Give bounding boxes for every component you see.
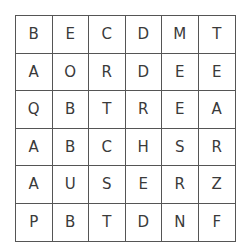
grid-cell[interactable]: M xyxy=(162,16,199,54)
grid-cell[interactable]: D xyxy=(126,54,163,92)
grid-cell[interactable]: E xyxy=(126,166,163,204)
grid-cell[interactable]: E xyxy=(162,54,199,92)
grid-cell[interactable]: R xyxy=(89,54,126,92)
grid-cell[interactable]: E xyxy=(199,54,236,92)
grid-cell[interactable]: B xyxy=(53,204,90,242)
grid-cell[interactable]: R xyxy=(162,166,199,204)
letter-grid: BECDMTAORDEEQBTREAABCHSRAUSERZPBTDNF xyxy=(15,15,236,242)
grid-cell[interactable]: C xyxy=(89,16,126,54)
grid-cell[interactable]: B xyxy=(53,129,90,167)
grid-cell[interactable]: T xyxy=(89,91,126,129)
grid-cell[interactable]: D xyxy=(126,204,163,242)
grid-cell[interactable]: F xyxy=(199,204,236,242)
grid-cell[interactable]: T xyxy=(89,204,126,242)
grid-cell[interactable]: E xyxy=(53,16,90,54)
grid-cell[interactable]: A xyxy=(16,54,53,92)
grid-cell[interactable]: B xyxy=(16,16,53,54)
grid-cell[interactable]: P xyxy=(16,204,53,242)
grid-cell[interactable]: R xyxy=(126,91,163,129)
grid-cell[interactable]: C xyxy=(89,129,126,167)
grid-cell[interactable]: A xyxy=(16,166,53,204)
grid-cell[interactable]: Z xyxy=(199,166,236,204)
grid-cell[interactable]: T xyxy=(199,16,236,54)
grid-cell[interactable]: D xyxy=(126,16,163,54)
grid-cell[interactable]: A xyxy=(16,129,53,167)
grid-cell[interactable]: S xyxy=(162,129,199,167)
grid-cell[interactable]: Q xyxy=(16,91,53,129)
grid-cell[interactable]: A xyxy=(199,91,236,129)
grid-cell[interactable]: U xyxy=(53,166,90,204)
grid-cell[interactable]: E xyxy=(162,91,199,129)
grid-cell[interactable]: B xyxy=(53,91,90,129)
grid-cell[interactable]: R xyxy=(199,129,236,167)
grid-cell[interactable]: N xyxy=(162,204,199,242)
grid-cell[interactable]: S xyxy=(89,166,126,204)
grid-cell[interactable]: O xyxy=(53,54,90,92)
grid-cell[interactable]: H xyxy=(126,129,163,167)
